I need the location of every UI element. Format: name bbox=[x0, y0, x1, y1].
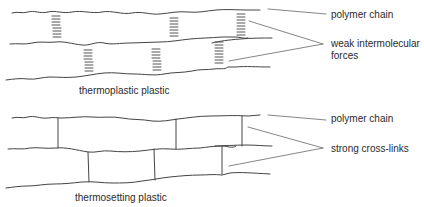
strong-cross-links-label: strong cross-links bbox=[331, 143, 409, 154]
thermosetting-caption: thermosetting plastic bbox=[75, 192, 167, 203]
weak-intermolecular-forces-label-line2: forces bbox=[331, 50, 358, 61]
diagram-drawing bbox=[0, 0, 424, 207]
weak-intermolecular-forces-label-line1: weak intermolecular bbox=[331, 38, 420, 49]
thermoplastic-caption: thermoplastic plastic bbox=[79, 85, 170, 96]
thermoplastic-chains bbox=[6, 10, 272, 80]
thermosetting-leaders bbox=[229, 115, 326, 166]
polymer-structure-diagram: polymer chain weak intermolecular forces… bbox=[0, 0, 424, 207]
cross-link-lines bbox=[58, 116, 242, 182]
thermosetting-chains bbox=[6, 115, 272, 188]
thermosetting-polymer-chain-label: polymer chain bbox=[331, 113, 393, 124]
thermoplastic-polymer-chain-label: polymer chain bbox=[331, 9, 393, 20]
